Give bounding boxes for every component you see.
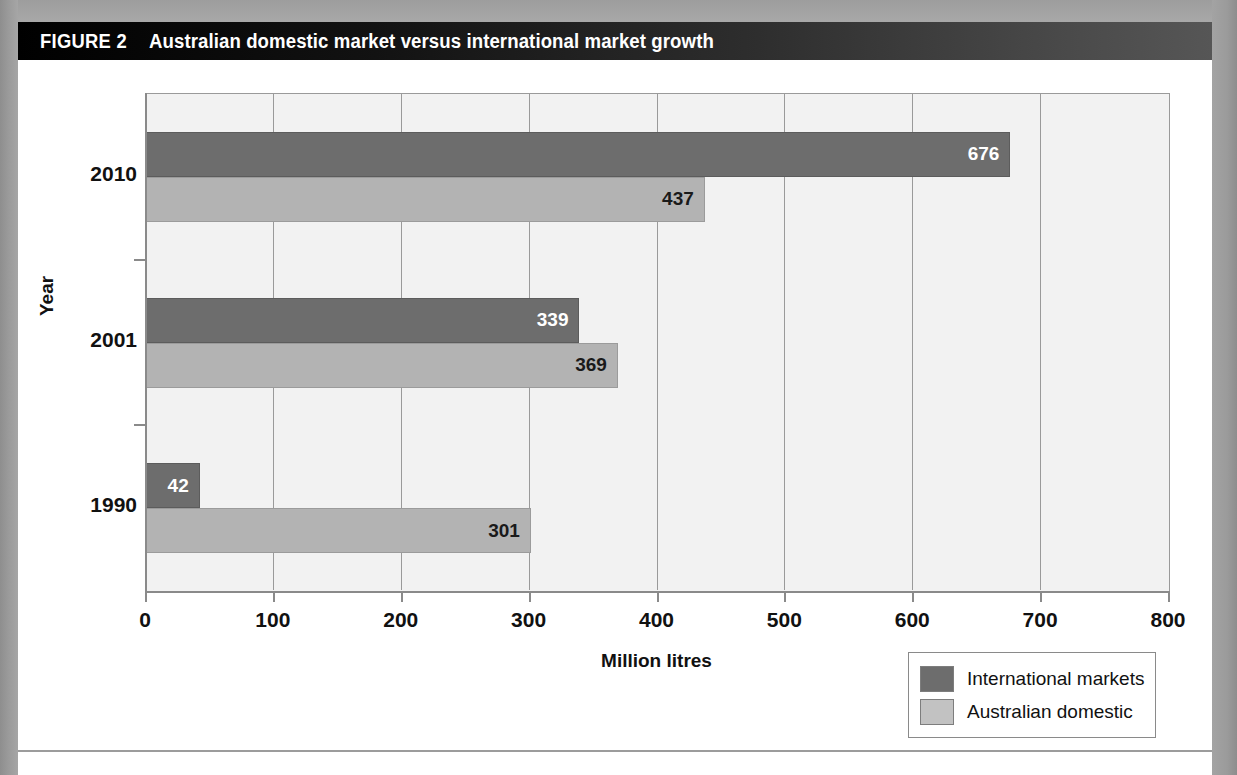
x-axis-tick-label: 700 xyxy=(1023,608,1058,632)
international-swatch xyxy=(920,666,954,692)
legend-label: Australian domestic xyxy=(967,701,1133,723)
x-axis-tick-label: 800 xyxy=(1150,608,1185,632)
figure-header-bar: FIGURE 2 Australian domestic market vers… xyxy=(18,22,1212,60)
x-axis-tick xyxy=(912,591,914,602)
x-axis-tick-label: 600 xyxy=(895,608,930,632)
y-axis-category-label: 2001 xyxy=(90,328,137,352)
figure-container: FIGURE 2 Australian domestic market vers… xyxy=(18,22,1212,775)
bar-australian-domestic-2010: 437 xyxy=(146,177,705,222)
figure-title: Australian domestic market versus intern… xyxy=(149,30,714,53)
bar-australian-domestic-2001: 369 xyxy=(146,343,618,388)
x-axis-tick xyxy=(401,591,403,602)
x-axis-tick-label: 400 xyxy=(639,608,674,632)
x-axis-tick xyxy=(657,591,659,602)
x-axis-tick-label: 100 xyxy=(255,608,290,632)
y-axis-category-label: 2010 xyxy=(90,162,137,186)
bar-international-markets-1990: 42 xyxy=(146,463,200,508)
x-axis-tick-label: 500 xyxy=(767,608,802,632)
bar-australian-domestic-1990: 301 xyxy=(146,508,531,553)
chart-legend: International marketsAustralian domestic xyxy=(908,652,1156,738)
bar-value-label: 437 xyxy=(662,188,704,210)
chart-area: 67643733936942301 201020011990 Year 0100… xyxy=(18,60,1212,775)
x-axis-tick xyxy=(529,591,531,602)
bar-value-label: 301 xyxy=(488,520,530,542)
x-axis-tick-label: 300 xyxy=(511,608,546,632)
legend-label: International markets xyxy=(967,668,1144,690)
page-bottom-rule xyxy=(18,750,1212,752)
y-axis-category-label: 1990 xyxy=(90,493,137,517)
x-axis-tick-label: 0 xyxy=(139,608,151,632)
figure-number-label: FIGURE 2 xyxy=(40,30,127,53)
bar-value-label: 676 xyxy=(968,143,1010,165)
x-axis-tick xyxy=(145,591,147,602)
bar-international-markets-2001: 339 xyxy=(146,298,579,343)
bar-international-markets-2010: 676 xyxy=(146,132,1010,177)
page-right-margin xyxy=(1212,0,1237,775)
y-axis-title: Year xyxy=(36,276,58,316)
domestic-swatch xyxy=(920,699,954,725)
x-axis-tick xyxy=(1040,591,1042,602)
legend-item: International markets xyxy=(920,662,1143,695)
legend-item: Australian domestic xyxy=(920,695,1143,728)
bar-value-label: 369 xyxy=(575,354,617,376)
page-left-margin xyxy=(0,0,18,775)
x-axis-tick xyxy=(273,591,275,602)
x-axis-tick xyxy=(784,591,786,602)
bars-layer: 67643733936942301 xyxy=(146,94,1169,591)
y-axis-tick xyxy=(134,259,146,261)
y-axis-line xyxy=(145,93,147,591)
y-axis-tick xyxy=(134,424,146,426)
x-axis-tick-label: 200 xyxy=(383,608,418,632)
bar-value-label: 42 xyxy=(168,475,199,497)
bar-value-label: 339 xyxy=(537,309,579,331)
page-top-margin xyxy=(18,0,1212,22)
x-axis-tick xyxy=(1168,591,1170,602)
